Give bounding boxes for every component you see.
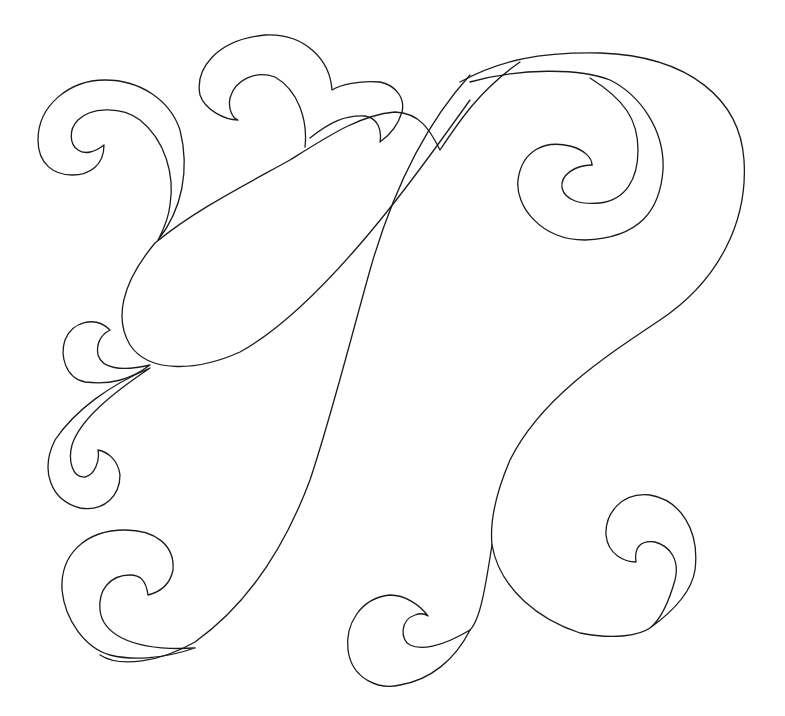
- paisley-teardrop: [122, 62, 520, 367]
- top-center-scrolls: [199, 35, 402, 147]
- artwork-canvas: Paisley swirl line-art: [0, 0, 785, 716]
- bottom-right-scroll: [492, 495, 696, 637]
- upper-right-spiral: [562, 78, 638, 203]
- large-tail-swoop: [460, 53, 744, 630]
- top-left-scroll: [38, 80, 184, 240]
- left-hook-curl: [48, 368, 150, 509]
- upper-right-inner-loop: [470, 71, 663, 240]
- bottom-center-curl: [348, 595, 470, 686]
- bottom-left-scroll: [62, 530, 195, 658]
- paisley-drawing: [0, 0, 785, 716]
